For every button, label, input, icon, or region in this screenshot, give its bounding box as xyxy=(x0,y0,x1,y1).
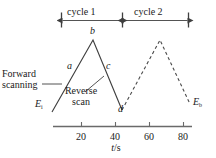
axis-title: t/s xyxy=(111,142,120,153)
point-label-b: b xyxy=(90,26,95,36)
cycle2-waveform-dashed xyxy=(122,40,190,110)
forward-scanning-line2: scanning xyxy=(2,79,38,90)
axis-title-unit: /s xyxy=(114,142,121,153)
point-label-a: a xyxy=(67,61,72,71)
forward-scanning-annotation: Forward scanning xyxy=(2,68,38,90)
reverse-scan-line2: scan xyxy=(58,96,104,107)
forward-scanning-line1: Forward xyxy=(2,68,38,79)
axis-tick-label-40: 40 xyxy=(110,131,120,142)
point-label-d: d xyxy=(118,104,123,114)
initial-potential-label: Ei xyxy=(35,99,43,109)
time-axis xyxy=(53,122,192,127)
point-label-c: c xyxy=(106,61,110,71)
axis-tick-label-60: 60 xyxy=(144,131,154,142)
reverse-scan-annotation: Reverse scan xyxy=(58,85,104,107)
cycle2-label: cycle 2 xyxy=(134,7,163,17)
axis-tick-label-20: 20 xyxy=(76,131,86,142)
cycle1-label: cycle 1 xyxy=(67,7,96,17)
initial-potential-subscript: i xyxy=(41,104,43,110)
axis-tick-label-80: 80 xyxy=(178,131,188,142)
final-potential-subscript: b xyxy=(199,102,202,108)
final-potential-label: Eb xyxy=(193,97,202,107)
reverse-scan-line1: Reverse xyxy=(58,85,104,96)
